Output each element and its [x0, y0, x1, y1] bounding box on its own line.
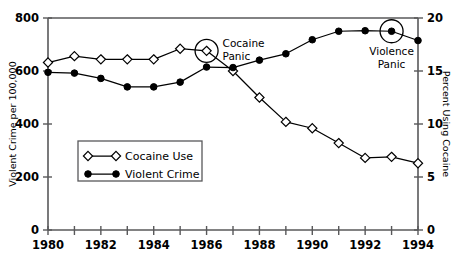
annotation-label-line2: Panic: [378, 58, 406, 70]
data-point: [283, 50, 290, 57]
y-axis-title: Violent Crime per 100,000: [7, 61, 18, 186]
data-point: [98, 75, 105, 82]
x-tick-label: 1986: [191, 238, 223, 252]
data-point: [203, 64, 210, 71]
data-point: [124, 84, 131, 91]
left-tick-label: 800: [15, 11, 39, 25]
data-point: [71, 70, 78, 77]
x-tick-label: 1984: [138, 238, 170, 252]
x-tick-label: 1990: [296, 238, 328, 252]
data-point: [230, 64, 237, 71]
annotation-label-line1: Cocaine: [223, 37, 265, 49]
data-point: [415, 37, 422, 44]
data-point: [335, 28, 342, 35]
chart-container: 0200400600800 05101520 19801982198419861…: [0, 0, 451, 263]
data-point: [256, 57, 263, 64]
dual-axis-line-chart: 0200400600800 05101520 19801982198419861…: [0, 0, 451, 263]
data-point: [45, 69, 52, 76]
right-tick-label: 0: [427, 223, 435, 237]
annotation-label-line1: Violence: [369, 45, 414, 57]
right-tick-label: 20: [427, 11, 443, 25]
x-tick-label: 1980: [32, 238, 64, 252]
data-point: [388, 28, 395, 35]
data-point: [309, 36, 316, 43]
left-tick-label: 600: [15, 64, 39, 78]
legend-item-label: Violent Crime: [125, 168, 200, 181]
x-tick-label: 1994: [402, 238, 434, 252]
left-tick-label: 200: [15, 170, 39, 184]
left-tick-label: 400: [15, 117, 39, 131]
data-point: [177, 79, 184, 86]
right-tick-label: 10: [427, 117, 443, 131]
data-point: [150, 84, 157, 91]
right-tick-label: 15: [427, 64, 443, 78]
legend-marker: [113, 171, 120, 178]
annotation-label-line2: Panic: [223, 50, 251, 62]
y2-axis-title: Percent Using Cocaine: [441, 71, 451, 178]
x-tick-label: 1988: [243, 238, 275, 252]
x-tick-label: 1992: [349, 238, 381, 252]
legend-item-label: Cocaine Use: [125, 150, 193, 163]
left-tick-label: 0: [31, 223, 39, 237]
chart-legend: Cocaine UseViolent Crime: [78, 141, 202, 181]
data-point: [362, 27, 369, 34]
legend-marker: [85, 171, 92, 178]
x-tick-label: 1982: [85, 238, 117, 252]
right-tick-label: 5: [427, 170, 435, 184]
